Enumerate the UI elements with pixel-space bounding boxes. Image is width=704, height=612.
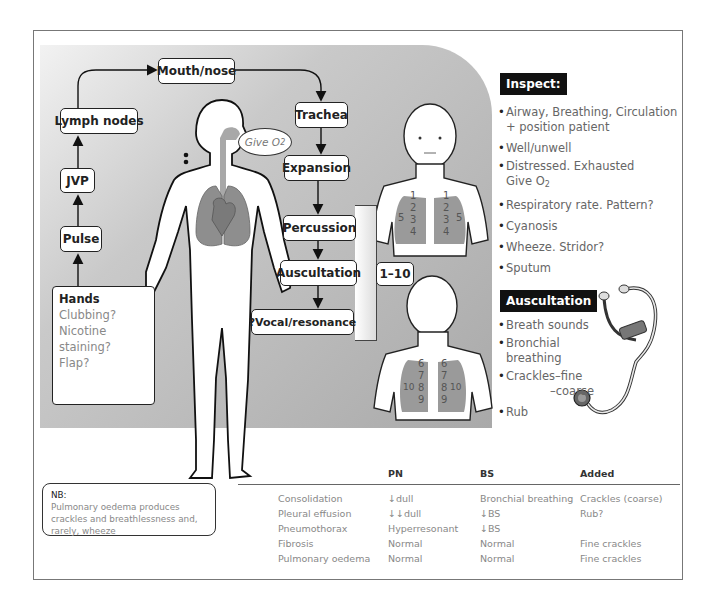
- table-header-bs: BS: [480, 468, 494, 479]
- back-right-10: 10: [450, 382, 461, 392]
- front-right-5: 5: [456, 212, 462, 223]
- node-lymph-nodes: Lymph nodes: [60, 108, 138, 134]
- speech-bubble-subscript: 2: [280, 138, 285, 147]
- node-expansion: Expansion: [284, 155, 349, 181]
- hands-title: Hands: [59, 291, 148, 307]
- ausc-item-breath-sounds: Breath sounds: [498, 318, 618, 333]
- hands-item-nicotine: Nicotine staining?: [59, 323, 148, 355]
- inspect-item-distressed: Distressed. ExhaustedGive O2: [498, 159, 678, 192]
- back-right-numbers: 6789: [441, 358, 447, 406]
- hands-item-clubbing: Clubbing?: [59, 307, 148, 323]
- speech-bubble: Give O2: [238, 128, 292, 156]
- inspect-item-wheeze: Wheeze. Stridor?: [498, 240, 678, 255]
- inspect-item-abc: Airway, Breathing, Circulation+ position…: [498, 105, 678, 135]
- ausc-item-crackles: Crackles–fine–coarse: [498, 369, 618, 399]
- front-chest-figure: [372, 104, 488, 256]
- back-chest-figure: [374, 276, 492, 420]
- hands-box: Hands Clubbing? Nicotine staining? Flap?: [52, 286, 155, 405]
- back-left-10: 10: [403, 382, 414, 392]
- human-body-figure: [146, 100, 292, 478]
- inspect-list: Airway, Breathing, Circulation+ position…: [498, 105, 678, 282]
- table-header-added: Added: [580, 468, 614, 479]
- speech-bubble-text: Give O: [245, 136, 280, 148]
- ausc-item-bronchial: Bronchial breathing: [498, 336, 618, 366]
- back-left-numbers: 6789: [418, 358, 424, 406]
- table-divider: [238, 484, 680, 485]
- front-left-numbers: 1234: [410, 190, 416, 238]
- nb-text: Pulmonary oedema produces crackles and b…: [51, 501, 207, 537]
- table-header-pn: PN: [388, 468, 403, 479]
- auscultation-list: Breath sounds Bronchial breathing Crackl…: [498, 318, 618, 426]
- node-auscultation: Auscultation: [280, 260, 357, 286]
- ausc-item-rub: Rub: [498, 405, 618, 420]
- hands-item-flap: Flap?: [59, 355, 148, 371]
- node-trachea: Trachea: [295, 102, 348, 128]
- front-right-numbers: 1234: [443, 190, 449, 238]
- node-vocal-resonance: ?Vocal/resonance: [251, 309, 354, 335]
- front-left-5: 5: [398, 212, 404, 223]
- inspect-item-resp-rate: Respiratory rate. Pattern?: [498, 198, 678, 213]
- nb-title: NB:: [51, 489, 207, 501]
- node-percussion: Percussion: [283, 215, 356, 241]
- inspect-item-well: Well/unwell: [498, 141, 678, 156]
- nb-note-box: NB: Pulmonary oedema produces crackles a…: [42, 483, 216, 536]
- inspect-item-sputum: Sputum: [498, 261, 678, 276]
- inspect-header: Inspect:: [500, 73, 567, 95]
- node-jvp: JVP: [60, 168, 95, 193]
- inspect-item-cyanosis: Cyanosis: [498, 219, 678, 234]
- node-zones-1-10: 1–10: [376, 262, 414, 286]
- node-pulse: Pulse: [60, 226, 102, 252]
- node-mouth-nose: Mouth/nose: [158, 58, 235, 84]
- auscultation-header: Auscultation: [500, 290, 597, 312]
